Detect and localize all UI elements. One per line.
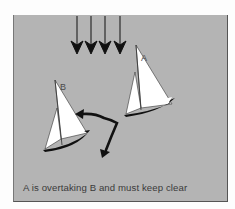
sailing-rule-diagram (0, 0, 235, 209)
boat-a-icon (124, 45, 175, 117)
wind-arrows-icon (71, 16, 126, 54)
boat-b-label: B (60, 82, 66, 92)
caption: A is overtaking B and must keep clear (23, 182, 187, 193)
boat-a-label: A (141, 53, 147, 63)
